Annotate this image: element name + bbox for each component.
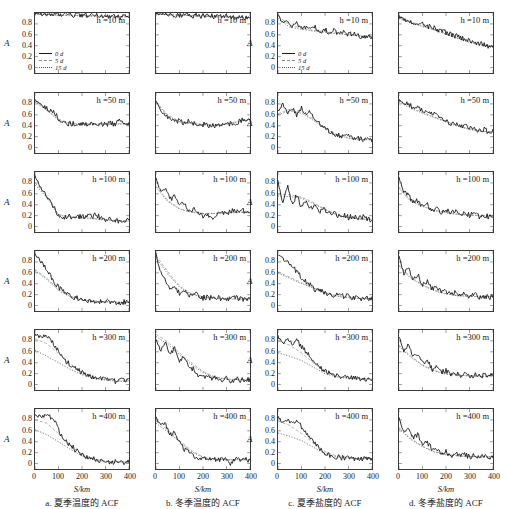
plot-panel-a-depth-1: h =50 m [34,92,130,154]
legend-label: 5 d [298,57,306,64]
y-tick-label: 0.2 [265,212,275,220]
y-axis-label: A [247,355,253,365]
y-tick-label: 0.6 [22,348,32,356]
y-tick-label: 0.6 [265,269,275,277]
y-tick-label: 0.4 [265,280,275,288]
depth-label: h =200 m [335,253,368,263]
y-tick-label: 0.8 [265,415,275,423]
y-axis-label: A [247,276,253,286]
plot-panel-c-depth-1: h =50 m [277,92,373,154]
plot-panel-c-depth-3: h =200 m [277,250,373,312]
legend-label: 15 d [298,64,309,71]
y-tick-label: 0.6 [265,348,275,356]
x-tick-label: 100 [416,473,428,481]
y-tick-label: 0.8 [265,178,275,186]
x-tick-label: 400 [245,473,257,481]
depth-label: h =10 m [97,15,125,25]
y-axis-label: A [247,197,253,207]
y-tick-label: 0.8 [22,257,32,265]
y-tick-label: 0 [28,381,32,389]
depth-label: h =300 m [335,332,368,342]
x-tick-label: 0 [275,473,279,481]
panel-caption-a: a. 夏季温度的 ACF [45,496,118,509]
x-tick-label: 200 [440,473,452,481]
y-tick-label: 0 [271,381,275,389]
plot-panel-b-depth-3: h =200 m [155,250,251,312]
y-tick-label: 0.4 [265,122,275,130]
plot-panel-a-depth-3: h =200 m [34,250,130,312]
y-tick-label: 0.4 [265,359,275,367]
y-tick-label: 0.8 [265,99,275,107]
depth-label: h =50 m [218,95,246,105]
plot-panel-d-depth-3: h =200 m [398,250,494,312]
legend-label: 5 d [55,57,63,64]
y-tick-label: 0 [28,460,32,468]
y-tick-label: 0.6 [22,111,32,119]
x-tick-label: 300 [464,473,476,481]
y-tick-label: 0.2 [22,291,32,299]
x-tick-label: 200 [76,473,88,481]
x-tick-label: 300 [221,473,233,481]
y-tick-label: 0.2 [22,370,32,378]
legend-item: 0 d [39,50,66,57]
y-tick-label: 0.8 [22,336,32,344]
legend-line-swatch [282,60,295,61]
x-axis-label: S/km [438,484,455,494]
x-tick-label: 100 [295,473,307,481]
y-tick-label: 0 [271,460,275,468]
y-tick-label: 0.2 [265,370,275,378]
x-tick-label: 300 [343,473,355,481]
depth-label: h =10 m [461,15,489,25]
y-tick-label: 0.8 [265,336,275,344]
depth-label: h =10 m [218,15,246,25]
y-tick-label: 0.8 [22,415,32,423]
x-tick-label: 200 [197,473,209,481]
depth-label: h =300 m [456,332,489,342]
depth-label: h =200 m [456,253,489,263]
y-tick-label: 0.8 [22,178,32,186]
y-tick-label: 0.4 [265,201,275,209]
y-tick-label: 0.6 [22,427,32,435]
depth-label: h =100 m [92,174,125,184]
panel-caption-b: b. 冬季温度的 ACF [166,496,240,509]
y-tick-label: 0 [28,223,32,231]
legend-line-swatch [282,53,295,54]
plot-panel-a-depth-2: h =100 m [34,171,130,233]
x-axis-label: S/km [74,484,91,494]
y-tick-label: 0.6 [22,269,32,277]
y-axis-label: A [247,118,253,128]
y-axis-label: A [247,38,253,48]
depth-label: h =400 m [335,411,368,421]
y-tick-label: 0.6 [265,111,275,119]
plot-panel-b-depth-0: h =10 m [155,12,251,74]
depth-label: h =400 m [213,411,246,421]
y-tick-label: 0.6 [265,427,275,435]
x-tick-label: 400 [367,473,379,481]
y-tick-label: 0.2 [265,53,275,61]
depth-label: h =100 m [335,174,368,184]
legend: 0 d5 d15 d [39,50,66,71]
y-tick-label: 0.4 [22,438,32,446]
y-tick-label: 0.2 [22,133,32,141]
depth-label: h =100 m [456,174,489,184]
x-tick-label: 300 [100,473,112,481]
depth-label: h =100 m [213,174,246,184]
y-tick-label: 0.4 [22,122,32,130]
depth-label: h =300 m [213,332,246,342]
depth-label: h =50 m [340,95,368,105]
y-tick-label: 0 [28,302,32,310]
panel-caption-d: d. 冬季盐度的 ACF [409,496,483,509]
legend: 0 d5 d15 d [282,50,309,71]
panel-caption-c: c. 夏季盐度的 ACF [288,496,361,509]
x-axis-label: S/km [317,484,334,494]
y-tick-label: 0.2 [22,449,32,457]
depth-label: h =400 m [92,411,125,421]
legend-item: 15 d [39,64,66,71]
legend-line-swatch [282,67,295,68]
y-tick-label: 0 [28,144,32,152]
y-axis-label: A [4,434,10,444]
y-tick-label: 0 [271,64,275,72]
y-tick-label: 0 [271,302,275,310]
legend-label: 15 d [55,64,66,71]
y-tick-label: 0.2 [265,449,275,457]
